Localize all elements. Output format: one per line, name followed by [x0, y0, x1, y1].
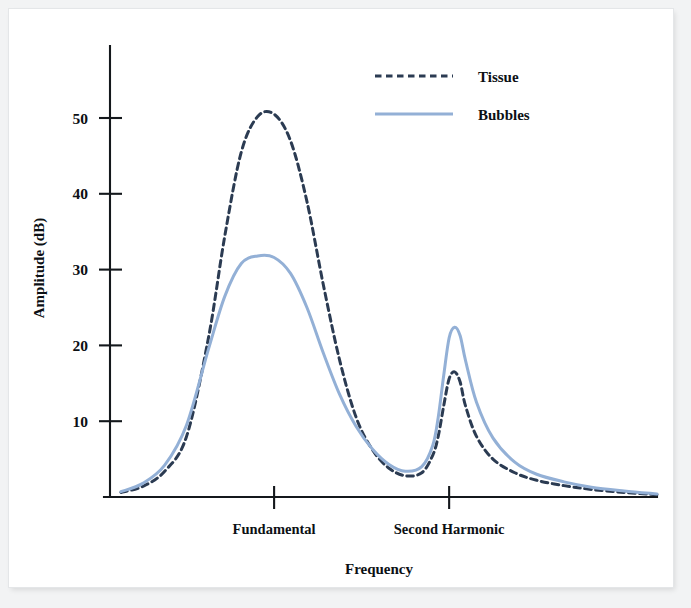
series-curve-bubbles	[121, 255, 657, 494]
y-tick-label: 10	[73, 413, 89, 430]
legend-label-bubbles: Bubbles	[478, 107, 530, 123]
chart-legend: TissueBubbles	[375, 69, 530, 123]
chart-plot: 1020304050 FundamentalSecond Harmonic Am…	[0, 0, 691, 608]
y-tick-label-group: 1020304050	[73, 110, 89, 430]
x-tick-label-group: FundamentalSecond Harmonic	[233, 521, 505, 537]
series-curve-tissue	[121, 111, 657, 494]
y-tick-label: 50	[73, 110, 89, 127]
figure-root: 1020304050 FundamentalSecond Harmonic Am…	[0, 0, 691, 608]
y-axis-title: Amplitude (dB)	[31, 218, 48, 318]
x-axis-title: Frequency	[345, 561, 414, 577]
legend-label-tissue: Tissue	[478, 69, 519, 85]
y-tick-label: 30	[73, 261, 89, 278]
x-tick-label: Fundamental	[233, 521, 316, 537]
x-tick-label: Second Harmonic	[394, 521, 505, 537]
y-tick-label: 20	[73, 337, 89, 354]
data-series-group	[121, 111, 657, 494]
y-tick-label: 40	[73, 185, 89, 202]
